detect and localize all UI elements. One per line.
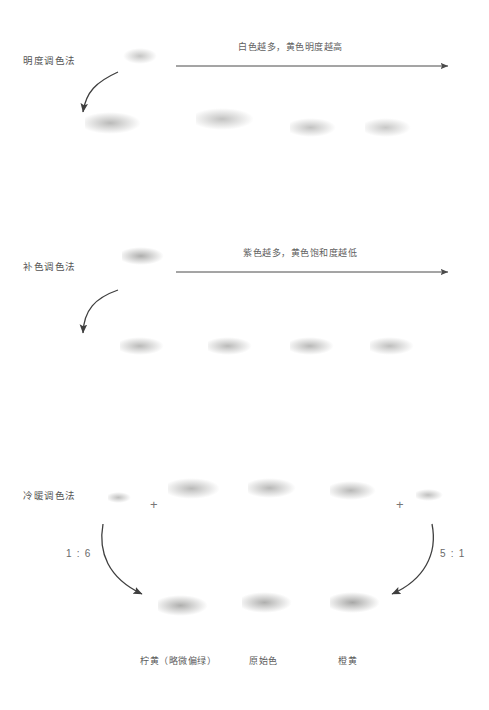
ball-brightness-2 [196, 108, 256, 168]
ball-complementary-2 [208, 337, 254, 383]
ball-warmcool-result-3 [330, 592, 382, 644]
ball-brightness-1 [85, 112, 143, 170]
ball-warmcool-top-1 [108, 492, 132, 516]
section-label-warmcool: 冷暖调色法 [23, 491, 76, 501]
plus-sign-right: + [396, 498, 404, 511]
ball-complementary-4 [370, 337, 416, 383]
ratio-label-left: 1 : 6 [66, 549, 91, 559]
plus-sign-left: + [150, 498, 158, 511]
ball-brightness-3 [290, 118, 338, 166]
warmcool-left-curved-arrow [102, 524, 142, 594]
complementary-arrow-caption: 紫色越多，黄色饱和度越低 [243, 249, 357, 258]
ball-warmcool-top-3 [248, 478, 298, 528]
diagram-canvas: 明度调色法 白色越多，黄色明度越高 补色调色法 紫色越多，黄色饱和度越低 [0, 0, 489, 710]
brightness-curved-arrow [83, 72, 118, 112]
ball-warmcool-result-2 [242, 592, 294, 644]
ball-brightness-4 [365, 118, 413, 166]
brightness-arrow-caption: 白色越多，黄色明度越高 [238, 43, 343, 52]
section-label-brightness: 明度调色法 [23, 56, 76, 66]
ball-warmcool-top-4 [330, 481, 378, 529]
ball-warmcool-top-2 [168, 478, 222, 532]
warmcool-right-curved-arrow [392, 524, 433, 594]
result-caption-2: 原始色 [249, 657, 278, 666]
ball-warmcool-top-5 [416, 489, 444, 517]
ball-complementary-1 [120, 337, 166, 383]
complementary-curved-arrow [83, 290, 118, 333]
ball-brightness-source [123, 48, 161, 86]
result-caption-3: 橙黄 [338, 657, 357, 666]
ball-complementary-source [122, 247, 166, 291]
section-label-complementary: 补色调色法 [23, 262, 76, 272]
ratio-label-right: 5 : 1 [440, 549, 465, 559]
ball-warmcool-result-1 [158, 595, 210, 647]
ball-complementary-3 [290, 337, 336, 383]
result-caption-1: 柠黄（略微偏绿） [140, 657, 216, 666]
